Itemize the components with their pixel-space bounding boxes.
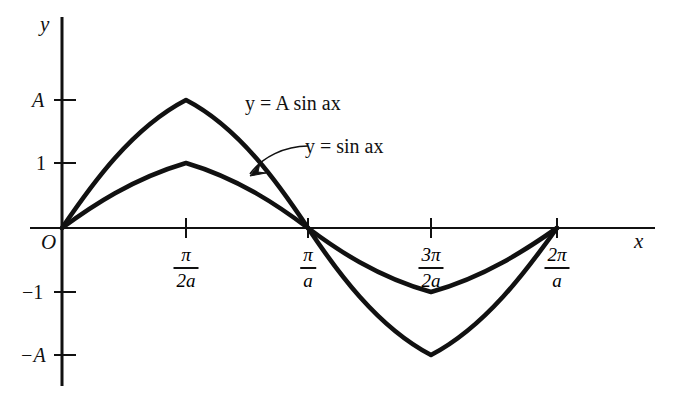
x-tick-label-pi-over-a: π a xyxy=(300,245,316,291)
fraction-numerator: π xyxy=(300,245,316,266)
fraction-bar xyxy=(418,267,443,269)
x-tick-label-2pi-over-a: 2π a xyxy=(544,245,569,291)
fraction-denominator: 2a xyxy=(174,270,199,291)
fraction-denominator: a xyxy=(300,270,316,291)
y-axis-label: y xyxy=(40,14,49,35)
fraction-numerator: π xyxy=(174,245,199,266)
fraction-bar xyxy=(544,267,569,269)
sine-curve-figure: y x O A 1 −1 −A π 2a π a 3π 2a 2π a y = … xyxy=(0,0,678,399)
fraction-bar xyxy=(174,267,199,269)
y-tick-label-1: 1 xyxy=(36,153,46,173)
fraction-denominator: 2a xyxy=(418,270,443,291)
fraction-numerator: 2π xyxy=(544,245,569,266)
curve-label-unit: y = sin ax xyxy=(305,136,384,156)
y-tick-label-A: A xyxy=(32,90,44,110)
x-tick-label-pi-over-2a: π 2a xyxy=(174,245,199,291)
plot-canvas xyxy=(0,0,678,399)
curve-label-amplitude: y = A sin ax xyxy=(245,93,341,113)
fraction-bar xyxy=(300,267,316,269)
x-tick-label-3pi-over-2a: 3π 2a xyxy=(418,245,443,291)
fraction-denominator: a xyxy=(544,270,569,291)
origin-label: O xyxy=(41,232,56,253)
fraction-numerator: 3π xyxy=(418,245,443,266)
y-tick-label-neg-1: −1 xyxy=(22,282,43,302)
x-axis-label: x xyxy=(634,231,643,252)
y-tick-label-neg-A: −A xyxy=(20,345,46,365)
